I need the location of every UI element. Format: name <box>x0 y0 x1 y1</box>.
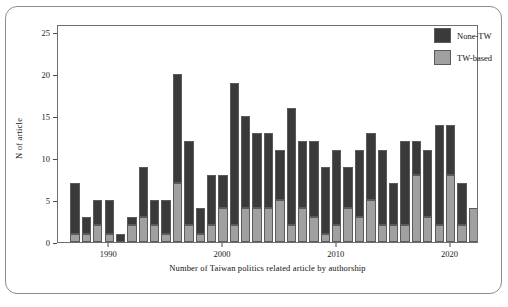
bar-segment-tw-based <box>423 217 432 242</box>
bar-group <box>82 217 91 242</box>
bar-segment-none-tw <box>93 200 102 225</box>
x-tick-label: 2020 <box>441 249 458 259</box>
bar-group <box>423 150 432 242</box>
bar-group <box>366 133 375 242</box>
x-axis-title: Number of Taiwan politics related articl… <box>57 263 478 273</box>
bar-segment-none-tw <box>218 175 227 209</box>
bar-segment-none-tw <box>241 116 250 208</box>
legend-swatch-tw-based <box>434 50 451 65</box>
bar-group <box>264 133 273 242</box>
bar-segment-tw-based <box>309 217 318 242</box>
y-tick-label: 20 <box>42 71 54 80</box>
bar-segment-none-tw <box>196 208 205 233</box>
y-tick-label: 15 <box>42 113 54 122</box>
bar-segment-tw-based <box>241 208 250 242</box>
bar-segment-tw-based <box>207 225 216 242</box>
bar-group <box>105 200 114 242</box>
bar-group <box>332 150 341 242</box>
bar-group <box>196 208 205 242</box>
bar-group <box>309 141 318 242</box>
x-tick: 2000 <box>213 243 230 259</box>
bar-segment-none-tw <box>105 200 114 234</box>
bar-segment-tw-based <box>469 208 478 242</box>
bar-group <box>435 125 444 242</box>
bar-group <box>298 141 307 242</box>
bar-segment-none-tw <box>150 200 159 225</box>
bar-segment-none-tw <box>127 217 136 225</box>
bar-segment-tw-based <box>457 225 466 242</box>
bar-segment-none-tw <box>446 125 455 175</box>
bar-segment-none-tw <box>298 141 307 208</box>
bar-segment-none-tw <box>457 183 466 225</box>
bar-group <box>127 217 136 242</box>
x-tick-label: 2000 <box>213 249 230 259</box>
bar-segment-tw-based <box>355 217 364 242</box>
x-tick: 2020 <box>441 243 458 259</box>
bar-group <box>446 125 455 242</box>
legend-swatch-none-tw <box>434 28 451 43</box>
bar-segment-tw-based <box>378 225 387 242</box>
bar-segment-none-tw <box>309 141 318 216</box>
bar-segment-tw-based <box>412 175 421 242</box>
y-tick-label: 25 <box>42 29 54 38</box>
bar-segment-none-tw <box>275 150 284 200</box>
x-tick-mark <box>449 243 450 247</box>
bar-segment-tw-based <box>400 225 409 242</box>
legend-label-tw-based: TW-based <box>457 53 492 63</box>
y-tick-label: 10 <box>42 155 54 164</box>
bar-segment-tw-based <box>264 208 273 242</box>
bar-group <box>230 83 239 242</box>
bar-segment-tw-based <box>139 217 148 242</box>
bar-group <box>252 133 261 242</box>
legend: None-TW TW-based <box>434 28 492 65</box>
bar-segment-none-tw <box>161 200 170 234</box>
x-tick-mark <box>108 243 109 247</box>
bar-segment-none-tw <box>435 125 444 226</box>
bar-segment-none-tw <box>264 133 273 208</box>
bar-group <box>161 200 170 242</box>
bar-segment-none-tw <box>423 150 432 217</box>
bar-group <box>321 167 330 242</box>
bar-segment-tw-based <box>184 225 193 242</box>
y-axis: N of article 0510152025 <box>0 25 57 243</box>
x-tick: 2010 <box>327 243 344 259</box>
bar-segment-none-tw <box>287 108 296 225</box>
bar-segment-none-tw <box>139 167 148 217</box>
bar-segment-tw-based <box>82 234 91 242</box>
bar-group <box>400 141 409 242</box>
bar-segment-tw-based <box>332 225 341 242</box>
bar-segment-tw-based <box>127 225 136 242</box>
bar-segment-none-tw <box>366 133 375 200</box>
bar-segment-tw-based <box>105 234 114 242</box>
bar-segment-tw-based <box>446 175 455 242</box>
bar-group <box>150 200 159 242</box>
bar-segment-none-tw <box>355 150 364 217</box>
bar-segment-tw-based <box>389 225 398 242</box>
bar-group <box>343 167 352 242</box>
bar-segment-tw-based <box>230 225 239 242</box>
bar-segment-tw-based <box>275 200 284 242</box>
bar-segment-none-tw <box>412 141 421 175</box>
legend-item-none-tw: None-TW <box>434 28 492 43</box>
bars-layer <box>58 26 477 242</box>
bar-group <box>184 141 193 242</box>
bar-segment-none-tw <box>252 133 261 208</box>
bar-segment-tw-based <box>196 234 205 242</box>
bar-segment-none-tw <box>173 74 182 183</box>
bar-segment-tw-based <box>321 234 330 242</box>
bar-segment-none-tw <box>321 167 330 234</box>
y-axis-title: N of article <box>14 118 24 159</box>
bar-group <box>355 150 364 242</box>
y-tick-label: 0 <box>46 239 53 248</box>
bar-segment-none-tw <box>82 217 91 234</box>
x-tick-label: 1990 <box>100 249 117 259</box>
plot-panel <box>57 25 478 243</box>
bar-group <box>116 234 125 242</box>
bar-segment-none-tw <box>343 167 352 209</box>
bar-group <box>457 183 466 242</box>
bar-segment-none-tw <box>389 183 398 225</box>
bar-segment-tw-based <box>287 225 296 242</box>
bar-segment-none-tw <box>332 150 341 225</box>
bar-group <box>469 208 478 242</box>
bar-segment-tw-based <box>150 225 159 242</box>
